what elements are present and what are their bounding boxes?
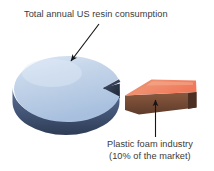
main-pie-slice: [13, 56, 121, 135]
exploded-slice-end-cap: [188, 92, 197, 109]
exploded-slice-side-wall: [125, 92, 197, 115]
arrow-total-resin: [71, 24, 99, 61]
annotation-plastic-foam: Plastic foam industry (10% of the market…: [107, 139, 193, 162]
pie-chart-figure: Total annual US resin consumption Plasti…: [0, 0, 214, 171]
annotation-plastic-foam-line2: (10% of the market): [107, 151, 193, 163]
annotation-total-resin: Total annual US resin consumption: [24, 9, 168, 21]
exploded-slice: [125, 80, 197, 115]
annotation-plastic-foam-line1: Plastic foam industry: [107, 139, 193, 151]
main-pie-highlight: [22, 59, 82, 87]
